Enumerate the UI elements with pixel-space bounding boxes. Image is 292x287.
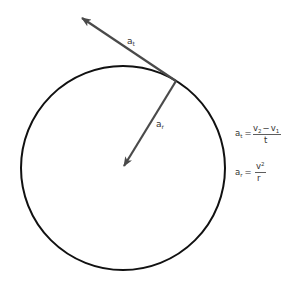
circular-motion-diagram: at ar at= v2−v1 t ar= v2 r [0,0,292,287]
circular-path [21,66,225,270]
svg-text:v2−v1: v2−v1 [253,123,279,134]
tangential-acceleration-arrow [82,18,176,81]
svg-text:v2: v2 [256,161,265,171]
svg-text:ar=: ar= [235,167,252,178]
tangential-acceleration-formula: at= v2−v1 t [235,123,281,145]
tangential-vector-label: at [127,36,136,47]
svg-text:t: t [264,135,268,145]
svg-text:at=: at= [235,128,252,139]
radial-acceleration-arrow [124,81,176,166]
radial-acceleration-formula: ar= v2 r [235,161,266,183]
radial-vector-label: ar [156,119,165,130]
svg-text:r: r [257,173,261,183]
